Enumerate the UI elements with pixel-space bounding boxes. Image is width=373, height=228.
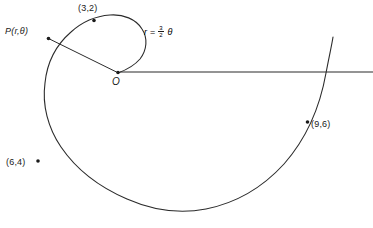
label-point-3-2: (3,2) <box>78 3 98 13</box>
equation-fraction: 3 2 <box>158 25 163 38</box>
radius-vector-line <box>49 39 118 73</box>
equation-equals-sign: = <box>150 27 155 37</box>
equation-numerator: 3 <box>158 25 163 32</box>
label-origin-o: O <box>112 76 120 87</box>
spiral-figure <box>0 0 373 228</box>
spiral-curve <box>44 15 333 211</box>
label-point-9-6: (9,6) <box>311 119 331 129</box>
equation-label: r = 3 2 θ <box>144 25 173 38</box>
label-point-6-4: (6,4) <box>6 157 26 167</box>
equation-theta-symbol: θ <box>168 27 173 37</box>
point-marker-64 <box>36 159 40 163</box>
equation-variable: r <box>144 27 147 37</box>
equation-denominator: 2 <box>158 32 163 38</box>
point-marker-32 <box>92 19 96 23</box>
point-marker-96 <box>306 120 310 124</box>
label-point-p-r-theta: P(r,θ) <box>5 26 28 36</box>
